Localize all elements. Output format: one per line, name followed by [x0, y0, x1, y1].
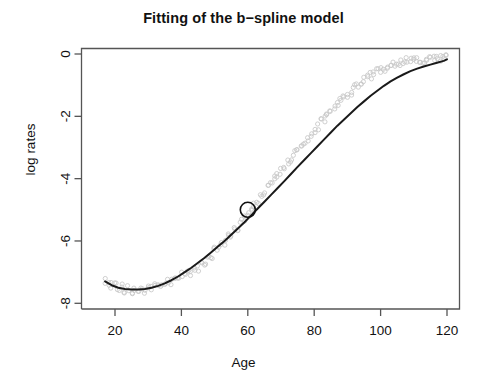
scatter-point: [369, 77, 373, 81]
x-tick-label: 80: [307, 323, 322, 338]
y-tick-label: 0: [58, 50, 73, 58]
scatter-point: [345, 92, 349, 96]
y-axis-ticks: 0-2-4-6-8: [58, 50, 82, 309]
scatter-point: [404, 56, 408, 60]
x-axis-ticks: 20406080100120: [107, 309, 458, 338]
y-tick-label: -8: [58, 297, 73, 309]
scatter-point: [316, 122, 320, 126]
x-tick-label: 100: [369, 323, 392, 338]
scatter-point: [125, 284, 129, 288]
scatter-point: [291, 153, 295, 157]
scatter-point: [103, 276, 107, 280]
scatter-point: [323, 120, 327, 124]
x-tick-label: 40: [174, 323, 189, 338]
y-tick-label: -4: [58, 172, 73, 184]
scatter-point: [223, 243, 227, 247]
chart-plot-area: 20406080100120 0-2-4-6-8: [0, 0, 487, 389]
y-tick-label: -2: [58, 110, 73, 122]
x-tick-label: 120: [436, 323, 459, 338]
scatter-point: [210, 256, 214, 260]
x-tick-label: 20: [107, 323, 122, 338]
plot-frame: [82, 49, 460, 310]
scatter-point: [142, 291, 146, 295]
scatter-points: [103, 53, 448, 296]
scatter-point: [371, 72, 375, 76]
axis-box: [82, 49, 460, 310]
y-tick-label: -6: [58, 235, 73, 247]
scatter-point: [350, 90, 354, 94]
scatter-point: [203, 263, 207, 267]
chart-figure: Fitting of the b−spline model log rates …: [0, 0, 487, 389]
x-tick-label: 60: [240, 323, 255, 338]
